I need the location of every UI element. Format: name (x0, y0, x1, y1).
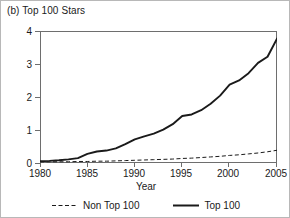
chart-legend: Non Top 100 Top 100 (1, 197, 290, 213)
x-axis-title: Year (1, 181, 290, 192)
x-tick-mark-1990 (134, 163, 135, 167)
x-tick-label-1985: 1985 (67, 168, 107, 179)
y-tick-label-4: 4 (26, 26, 32, 37)
x-tick-mark-1985 (87, 163, 88, 167)
legend-label-top-100: Top 100 (204, 200, 240, 211)
x-tick-mark-2000 (228, 163, 229, 167)
x-tick-label-1995: 1995 (161, 168, 201, 179)
x-tick-mark-1995 (181, 163, 182, 167)
legend-solid-line-icon (173, 201, 199, 210)
figure-panel: (b) Top 100 Stars 0 1 2 3 4 1980 1985 19… (0, 0, 290, 218)
x-tick-mark-1980 (40, 163, 41, 167)
y-tick-label-0: 0 (26, 158, 32, 169)
x-tick-label-2005: 2005 (256, 168, 290, 179)
legend-item-non-top-100: Non Top 100 (52, 200, 140, 211)
legend-label-non-top-100: Non Top 100 (83, 200, 140, 211)
x-tick-label-2000: 2000 (208, 168, 248, 179)
y-tick-label-1: 1 (26, 125, 32, 136)
legend-dashed-line-icon (52, 201, 78, 210)
x-tick-label-1980: 1980 (20, 168, 60, 179)
plot-svg (40, 31, 277, 163)
series-line-top-100 (40, 39, 277, 162)
y-tick-label-3: 3 (26, 59, 32, 70)
y-tick-label-2: 2 (26, 92, 32, 103)
x-tick-label-1990: 1990 (114, 168, 154, 179)
x-tick-mark-2005 (276, 163, 277, 167)
legend-item-top-100: Top 100 (173, 200, 240, 211)
plot-area (40, 31, 277, 163)
series-line-non-top-100 (40, 150, 277, 162)
